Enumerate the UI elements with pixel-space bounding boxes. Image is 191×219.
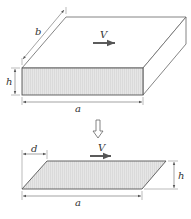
label-d: d [31, 143, 37, 154]
label-h-top: h [6, 76, 12, 87]
label-v-bottom: V [98, 142, 107, 153]
dimension-a-top: a [22, 97, 143, 114]
label-b: b [35, 26, 41, 37]
dimension-a-bottom: a [22, 191, 142, 208]
shear-diagram: b V h a d V h [0, 0, 191, 219]
sheared-section [22, 161, 166, 189]
label-a-bottom: a [75, 197, 81, 208]
dimension-h-top: h [6, 68, 20, 95]
label-h-bottom: h [178, 170, 184, 181]
label-a-top: a [75, 103, 81, 114]
hollow-down-arrow-icon [93, 120, 103, 138]
velocity-bottom: V [90, 142, 111, 156]
block-front-face [22, 68, 143, 95]
